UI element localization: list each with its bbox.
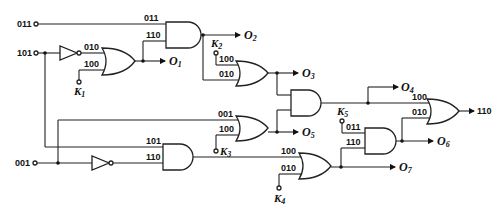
svg-text:K4: K4 [273,192,285,206]
svg-text:101: 101 [17,48,32,58]
wire-label: 011 [144,13,159,23]
wire-label: 010 [84,42,99,52]
wire-label: 100 [219,54,234,64]
wire-label: 011 [346,122,361,132]
key-k1[interactable]: K1 [73,70,106,99]
wire-label: 010 [219,69,234,79]
or-gate-3 [236,116,268,141]
wire-label: 001 [218,109,233,119]
wire-label: 100 [281,146,296,156]
and-gate-3 [291,90,321,116]
wire-label: 110 [146,152,161,162]
output-o5: O5 [302,125,315,140]
wire-label: 100 [412,92,427,102]
svg-text:K2: K2 [210,37,222,51]
input-001: 001 [15,158,92,168]
inverter-1 [60,46,106,60]
and-gate-4 [163,144,193,170]
wire-label: 010 [281,163,296,173]
wire-label: 110 [346,137,361,147]
key-k3[interactable]: K3 [214,135,240,159]
logic-circuit-diagram: 011 011 101 010 K1 100 O1 110 O2 010 [0,0,503,215]
svg-text:K5: K5 [336,105,348,119]
svg-text:011: 011 [17,19,32,29]
output-o3: O3 [302,66,315,81]
wire-label: 110 [146,30,161,40]
output-o2: O2 [244,28,257,43]
wire-label: 101 [146,136,161,146]
svg-text:001: 001 [15,158,30,168]
output-o7: O7 [399,160,413,175]
or-gate-5 [427,99,459,124]
or-gate-2 [236,61,268,86]
or-gate-1 [102,48,135,75]
wire-label: 100 [84,59,99,69]
wire-label: 100 [219,124,234,134]
output-o1: O1 [169,54,182,69]
final-output: 110 [477,106,492,116]
and-gate-5 [365,128,396,154]
or-gate-4 [299,153,331,179]
svg-text:K1: K1 [73,85,85,99]
and-gate-1 [166,22,201,48]
output-o6: O6 [437,134,450,149]
wire-label: 010 [412,107,427,117]
